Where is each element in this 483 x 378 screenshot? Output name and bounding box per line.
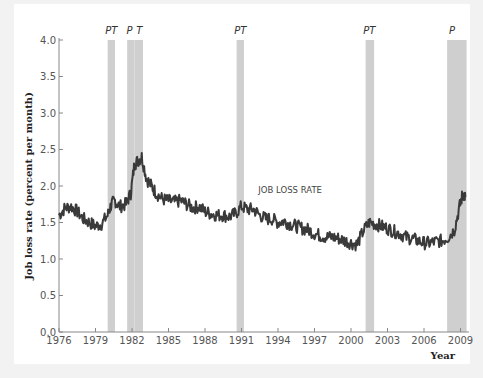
series-annotation: JOB LOSS RATE [257, 185, 322, 195]
recession-band-label: PT [363, 25, 376, 36]
y-tick-label: 3.0 [40, 108, 56, 119]
recession-bands: PTPTPTPTP [105, 25, 466, 332]
y-tick-label: 2.0 [40, 181, 56, 192]
x-tick-label: 1988 [192, 335, 217, 346]
x-tick-label: 2006 [411, 335, 436, 346]
y-tick-label: 4.0 [40, 35, 56, 46]
x-tick-label: 2009 [448, 335, 473, 346]
recession-band-label: PT [105, 25, 118, 36]
x-tick-label: 2003 [375, 335, 400, 346]
job-loss-rate-chart: PTPTPTPTP 0.00.51.01.52.02.53.03.54.0197… [0, 0, 483, 378]
job-loss-rate-line [59, 153, 465, 250]
x-tick-label: 1997 [302, 335, 327, 346]
series-line [59, 153, 465, 250]
recession-band-label: P [127, 25, 134, 36]
recession-band [237, 40, 244, 332]
recession-band [447, 40, 466, 332]
x-tick-label: 2000 [338, 335, 363, 346]
y-tick-label: 1.0 [40, 254, 56, 265]
x-tick-label: 1994 [265, 335, 290, 346]
y-tick-label: 0.5 [40, 290, 56, 301]
x-tick-label: 1982 [119, 335, 144, 346]
y-axis-label: Job loss rate (percent per month) [23, 92, 34, 281]
x-axis-label: Year [430, 350, 456, 361]
recession-band-label: PT [234, 25, 247, 36]
x-tick-label: 1991 [229, 335, 254, 346]
x-tick-label: 1976 [46, 335, 71, 346]
y-tick-label: 1.5 [40, 217, 56, 228]
x-tick-label: 1979 [83, 335, 108, 346]
x-tick-label: 1985 [156, 335, 181, 346]
recession-band-label: P [449, 25, 456, 36]
recession-band [134, 40, 143, 332]
recession-band [366, 40, 375, 332]
recession-band [108, 40, 115, 332]
axes: 0.00.51.01.52.02.53.03.54.01976197919821… [40, 35, 473, 347]
y-tick-label: 2.5 [40, 144, 56, 155]
recession-band-label: T [136, 25, 143, 36]
y-tick-label: 3.5 [40, 71, 56, 82]
